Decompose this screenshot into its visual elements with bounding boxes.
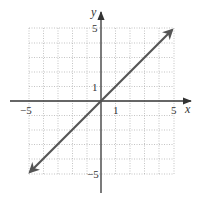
x-axis-label: x: [184, 102, 191, 116]
x-tick-1: 1: [113, 104, 119, 116]
x-tick-neg5: −5: [20, 104, 32, 116]
line-y-equals-x-lower: [30, 101, 101, 172]
y-tick-1: 1: [92, 81, 98, 93]
line-y-equals-x: [101, 30, 172, 101]
y-axis-label: y: [90, 5, 97, 19]
x-tick-5: 5: [171, 104, 177, 116]
y-tick-neg5: −5: [87, 168, 99, 180]
y-tick-5: 5: [92, 22, 98, 34]
coordinate-plane: y x −5 1 5 5 1 −5: [0, 0, 203, 202]
